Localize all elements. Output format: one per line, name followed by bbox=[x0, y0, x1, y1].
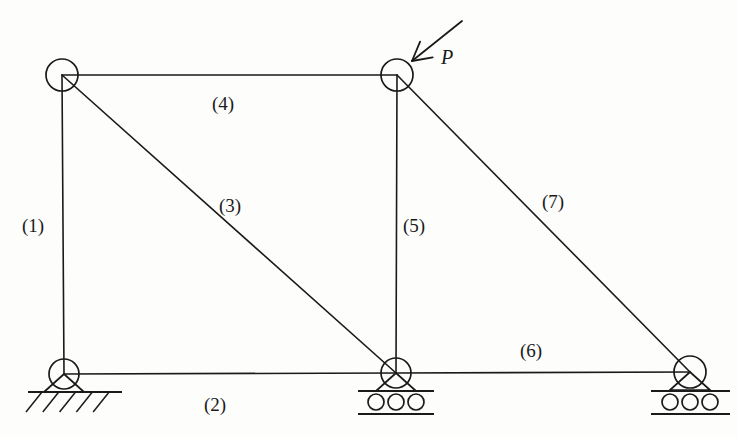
roller-support-middle-roller bbox=[408, 394, 424, 410]
roller-support-middle-roller bbox=[368, 394, 384, 410]
member-1 bbox=[62, 75, 64, 374]
truss-diagram-canvas: P (1)(2)(3)(4)(5)(6)(7) bbox=[0, 0, 738, 437]
member-5-label: (5) bbox=[403, 215, 425, 237]
supports-group bbox=[26, 372, 730, 414]
pinned-support-hatch bbox=[60, 392, 76, 412]
member-4-label: (4) bbox=[212, 93, 234, 115]
truss-diagram-svg: P (1)(2)(3)(4)(5)(6)(7) bbox=[0, 0, 738, 437]
roller-support-right-roller bbox=[702, 394, 718, 410]
member-labels-group: (1)(2)(3)(4)(5)(6)(7) bbox=[22, 93, 564, 416]
roller-support-middle-roller bbox=[388, 394, 404, 410]
member-2-label: (2) bbox=[204, 394, 226, 416]
pinned-support-hatch bbox=[43, 392, 59, 412]
roller-support-right-roller bbox=[682, 394, 698, 410]
member-3 bbox=[62, 75, 396, 373]
pinned-support-hatch bbox=[26, 392, 42, 412]
member-2 bbox=[64, 373, 396, 374]
roller-support-right-roller bbox=[662, 394, 678, 410]
load-label-P: P bbox=[440, 46, 453, 68]
joints-group bbox=[46, 59, 706, 389]
load-group: P bbox=[412, 21, 462, 68]
member-7-label: (7) bbox=[542, 191, 564, 213]
member-7 bbox=[397, 75, 690, 372]
member-1-label: (1) bbox=[22, 215, 44, 237]
pinned-support-hatch bbox=[93, 392, 109, 412]
member-6 bbox=[396, 372, 690, 373]
members-group bbox=[62, 75, 690, 374]
pinned-support-hatch bbox=[76, 392, 92, 412]
member-6-label: (6) bbox=[520, 340, 542, 362]
member-5 bbox=[396, 75, 397, 373]
member-3-label: (3) bbox=[219, 195, 241, 217]
